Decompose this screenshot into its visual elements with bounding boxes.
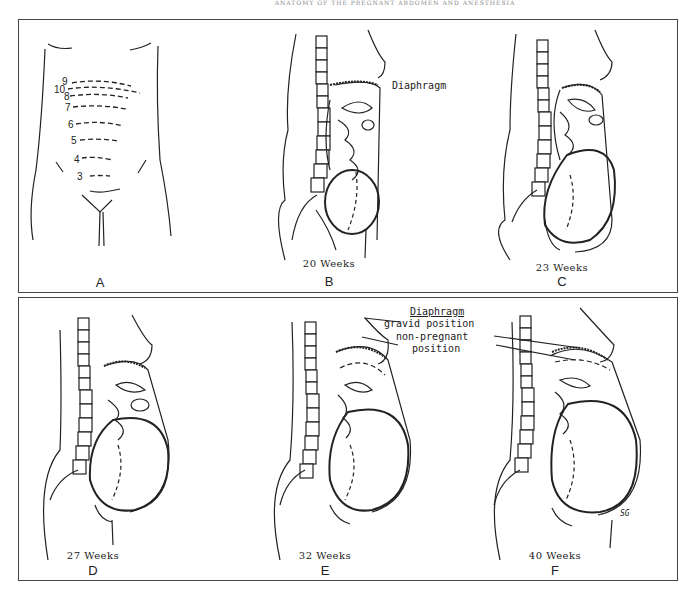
gravid-position-label: gravid position [384, 318, 474, 329]
figure-c-23-weeks [499, 30, 615, 260]
figure-f-letter: F [525, 563, 585, 578]
sagittal-figures [0, 0, 686, 596]
position-label: position [412, 343, 460, 354]
figure-b-20-weeks [279, 30, 386, 260]
figure-e-letter: E [295, 563, 355, 578]
artist-signature: SG [620, 509, 630, 518]
diaphragm-label-b: Diaphragm [392, 80, 446, 91]
figure-f-40-weeks [494, 308, 640, 560]
figure-e-caption: 32 Weeks [280, 550, 370, 561]
figure-c-letter: C [532, 274, 592, 289]
figure-d-caption: 27 Weeks [48, 550, 138, 561]
figure-a-letter: A [70, 275, 130, 290]
figure-c-caption: 23 Weeks [517, 262, 607, 273]
figure-f-caption: 40 Weeks [510, 550, 600, 561]
figure-e-32-weeks [274, 318, 410, 560]
figure-b-caption: 20 Weeks [284, 258, 374, 269]
non-pregnant-label: non-pregnant [396, 331, 468, 342]
figure-d-letter: D [63, 563, 123, 578]
diaphragm-title: Diaphragm [410, 306, 464, 317]
figure-b-letter: B [299, 274, 359, 289]
figure-d-27-weeks [44, 315, 169, 560]
